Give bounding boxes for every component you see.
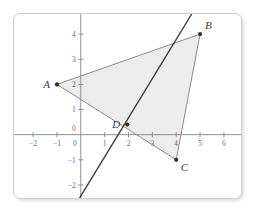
x-tick-label-0: 0 — [73, 139, 77, 148]
y-tick-label-3: 3 — [72, 55, 76, 64]
point-B — [198, 32, 202, 36]
x-tick-label-2: 2 — [127, 139, 131, 148]
y-tick-label-4: 4 — [72, 30, 76, 39]
x-tick-label--2: −2 — [29, 139, 37, 148]
y-axis-tick-labels: −2−101234 — [68, 30, 76, 190]
y-tick-label--1: −1 — [68, 156, 76, 165]
point-D — [125, 122, 129, 126]
coordinate-plane-svg: −2−10123456 −2−101234 ABCD — [14, 14, 242, 199]
x-tick-label-1: 1 — [103, 139, 107, 148]
x-tick-label-3: 3 — [150, 139, 154, 148]
point-C — [174, 158, 178, 162]
point-label-B: B — [205, 19, 212, 31]
figure-root: −2−10123456 −2−101234 ABCD — [0, 0, 256, 215]
point-label-C: C — [181, 161, 189, 173]
x-tick-label-4: 4 — [174, 139, 178, 148]
x-tick-label--1: −1 — [53, 139, 61, 148]
point-A — [55, 82, 59, 86]
y-tick-label-0: 0 — [72, 124, 76, 133]
y-tick-label--2: −2 — [68, 181, 76, 190]
x-axis-tick-labels: −2−10123456 — [29, 139, 226, 148]
y-tick-label-2: 2 — [72, 80, 76, 89]
x-tick-label-6: 6 — [222, 139, 226, 148]
point-label-A: A — [42, 78, 50, 90]
x-tick-label-5: 5 — [198, 139, 202, 148]
y-tick-label-1: 1 — [72, 105, 76, 114]
point-label-D: D — [111, 118, 120, 130]
graph-panel: −2−10123456 −2−101234 ABCD — [13, 13, 242, 199]
